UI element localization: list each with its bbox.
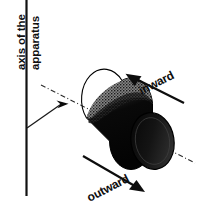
axis-intersection-marker: [57, 101, 69, 109]
axis-leader-line: [27, 104, 62, 129]
diagram-canvas: [0, 0, 197, 208]
apparatus-flow-diagram: axis of the apparatus inward outward: [0, 0, 197, 208]
cylinder-body: [82, 69, 179, 172]
